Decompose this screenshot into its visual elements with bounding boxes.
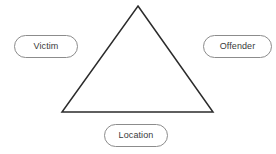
node-victim[interactable]: Victim (14, 35, 78, 58)
node-location-label: Location (119, 131, 154, 141)
diagram-canvas: Victim Offender Location (0, 0, 276, 154)
node-location[interactable]: Location (104, 124, 168, 147)
node-offender[interactable]: Offender (203, 35, 272, 58)
triangle-outline (62, 6, 213, 112)
node-offender-label: Offender (220, 42, 256, 52)
node-victim-label: Victim (34, 42, 59, 52)
